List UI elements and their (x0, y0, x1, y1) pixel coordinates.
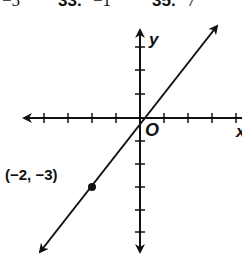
x-axis-label: x (236, 122, 242, 142)
coordinate-graph (0, 0, 242, 258)
y-axis-label: y (149, 30, 158, 50)
point-label: (−2, −3) (5, 166, 58, 183)
graphed-line (40, 26, 217, 252)
point-marker (88, 183, 96, 191)
origin-label: O (145, 120, 159, 141)
